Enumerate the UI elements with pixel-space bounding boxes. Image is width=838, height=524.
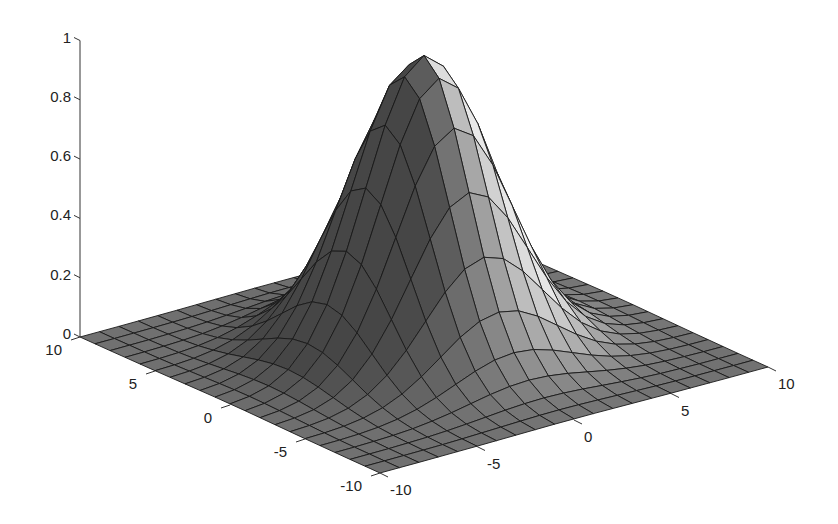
z-tick-label: 0.8 <box>50 88 71 105</box>
y-tick-label: -5 <box>274 443 287 460</box>
z-tick <box>74 215 80 218</box>
y-tick-label: 0 <box>204 409 212 426</box>
x-tick-label: 10 <box>778 375 795 392</box>
x-tick-label: 5 <box>681 402 689 419</box>
z-tick <box>74 156 80 159</box>
z-tick <box>74 38 80 41</box>
x-tick-label: -5 <box>487 455 500 472</box>
z-tick-label: 0.4 <box>50 206 71 223</box>
z-tick-label: 1 <box>63 29 71 46</box>
x-tick <box>574 420 582 424</box>
x-tick <box>768 367 776 371</box>
x-tick <box>671 394 679 398</box>
x-tick <box>380 473 388 477</box>
z-tick <box>74 275 80 278</box>
y-tick <box>71 337 80 340</box>
x-tick <box>477 447 485 451</box>
surface-mesh <box>80 56 768 474</box>
z-tick <box>74 97 80 100</box>
y-tick-label: 10 <box>45 341 62 358</box>
z-axis: 00.20.40.60.81 <box>50 29 80 343</box>
y-tick <box>371 473 380 476</box>
y-tick-label: 5 <box>129 375 137 392</box>
z-tick-label: 0.2 <box>50 266 71 283</box>
y-tick <box>296 439 305 442</box>
z-tick-label: 0 <box>63 325 71 342</box>
y-tick <box>221 405 230 408</box>
x-tick-label: -10 <box>390 481 412 498</box>
z-tick-label: 0.6 <box>50 147 71 164</box>
y-tick <box>146 371 155 374</box>
surface-plot: 00.20.40.60.81 -10-50510-10-50510 <box>0 0 838 524</box>
y-tick-label: -10 <box>340 477 362 494</box>
z-tick <box>74 334 80 337</box>
x-tick-label: 0 <box>584 428 592 445</box>
